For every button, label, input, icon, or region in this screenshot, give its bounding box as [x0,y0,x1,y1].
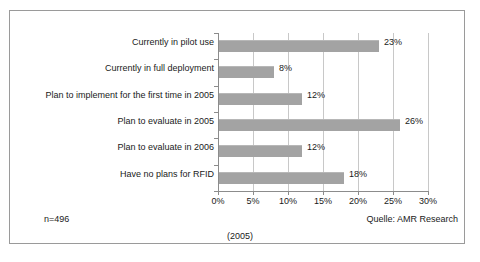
bar-row: 12% [218,86,428,112]
x-axis-tick-label: 15% [314,196,332,206]
x-axis-tick-label: 5% [246,196,259,206]
bar-row: 26% [218,112,428,138]
x-axis-tick [393,191,394,195]
bar-value-label: 12% [307,90,325,100]
bar-value-label: 8% [279,63,292,73]
bar [218,119,400,131]
value-axis-line [218,33,219,192]
bar-row: 12% [218,138,428,164]
x-axis-tick [358,191,359,195]
x-axis-tick-label: 0% [211,196,224,206]
bar [218,66,274,78]
bar [218,172,344,184]
x-axis-tick-label: 30% [419,196,437,206]
y-axis-tick [214,165,218,166]
x-axis-tick [253,191,254,195]
bar-value-label: 23% [384,37,402,47]
x-axis-tick-label: 20% [349,196,367,206]
y-axis-tick [214,33,218,34]
source-note: Quelle: AMR Research [366,214,458,224]
y-axis-tick [214,86,218,87]
category-axis-labels: Currently in pilot useCurrently in full … [4,33,214,191]
gridline [428,33,429,191]
bar-row: 18% [218,165,428,191]
bar-value-label: 18% [349,169,367,179]
chart-figure: Currently in pilot useCurrently in full … [0,0,480,262]
x-axis-tick [218,191,219,195]
category-label: Plan to evaluate in 2005 [4,116,214,126]
x-axis-tick [428,191,429,195]
sample-size-note: n=496 [44,214,69,224]
y-axis-tick [214,191,218,192]
bar-value-label: 12% [307,142,325,152]
y-axis-tick [214,59,218,60]
category-label: Plan to evaluate in 2006 [4,142,214,152]
x-axis-tick [323,191,324,195]
bar-value-label: 26% [405,116,423,126]
category-label: Currently in pilot use [4,37,214,47]
x-axis-tick-label: 10% [279,196,297,206]
x-axis-tick-label: 25% [384,196,402,206]
x-axis-tick [288,191,289,195]
bar [218,93,302,105]
category-label: Currently in full deployment [4,63,214,73]
bar-row: 8% [218,59,428,85]
bar-row: 23% [218,33,428,59]
category-label: Plan to implement for the first time in … [4,90,214,100]
category-label: Have no plans for RFID [4,169,214,179]
y-axis-tick [214,112,218,113]
y-axis-tick [214,138,218,139]
bar [218,145,302,157]
figure-caption: (2005) [0,231,480,241]
bar [218,40,379,52]
plot-area: 23%8%12%26%12%18% [218,33,428,191]
